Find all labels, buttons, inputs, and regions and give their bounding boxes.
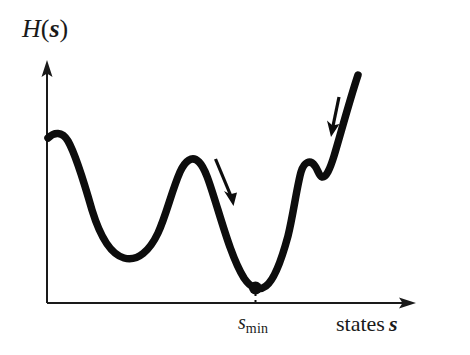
- y-axis-label-close-paren: ): [60, 14, 69, 43]
- y-axis-label-function: H: [22, 14, 41, 43]
- energy-landscape-figure: H(s) statess smin: [0, 0, 470, 355]
- energy-curve: [48, 75, 358, 289]
- descent-arrow-1: [216, 159, 238, 206]
- descent-arrow-2-shaft: [333, 97, 339, 126]
- y-axis-label: H(s): [22, 16, 68, 42]
- global-minimum-dot: [249, 282, 262, 295]
- global-minimum-label: smin: [238, 312, 268, 336]
- y-axis: [42, 60, 53, 303]
- global-minimum-annotation: [249, 282, 262, 306]
- x-axis-label: statess: [336, 313, 397, 335]
- x-axis-label-variable: s: [389, 311, 398, 336]
- global-minimum-subscript: min: [246, 321, 268, 336]
- descent-arrow-1-shaft: [216, 159, 231, 195]
- y-axis-label-variable: s: [49, 14, 59, 43]
- global-minimum-symbol: s: [238, 311, 246, 333]
- x-axis-label-text: states: [336, 311, 385, 336]
- figure-canvas: [0, 0, 470, 355]
- x-axis: [47, 298, 416, 309]
